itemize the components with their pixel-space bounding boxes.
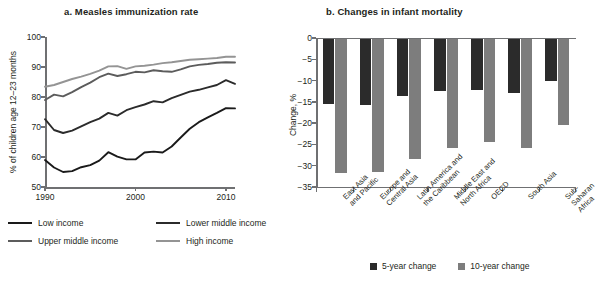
panel-a-y-tick-label: 60 xyxy=(32,152,41,162)
panel-b-y-tick-mark xyxy=(312,122,316,123)
panel-b-legend-item-10-year-change[interactable]: 10-year change xyxy=(458,261,529,271)
panel-a-x-tick-label: 2000 xyxy=(126,192,145,202)
panel-b-y-tick-mark xyxy=(312,101,316,102)
panel-b-x-tick-mark xyxy=(316,187,317,192)
panel-b-bar[interactable] xyxy=(484,39,496,142)
panel-b-y-tick-label: 0 xyxy=(307,33,312,43)
panel-a-x-tick-label: 2010 xyxy=(216,192,235,202)
panel-a-y-tick-label: 50 xyxy=(32,182,41,192)
panel-a-legend-row: Upper middle incomeHigh income xyxy=(8,236,294,246)
panel-a-line-lower-middle-income xyxy=(45,80,235,133)
panel-b-bar[interactable] xyxy=(508,39,520,93)
panel-b-bar[interactable] xyxy=(360,39,372,105)
legend-line-swatch-icon xyxy=(8,222,32,225)
panel-a-y-tick-label: 70 xyxy=(32,122,41,132)
panel-a-x-tick-mark xyxy=(44,187,45,191)
legend-line-swatch-icon xyxy=(156,240,180,243)
panel-b-bar[interactable] xyxy=(335,39,347,173)
panel-a-x-tick-label: 1990 xyxy=(36,192,55,202)
panel-b-bar[interactable] xyxy=(434,39,446,91)
panel-b-y-tick-label: −30 xyxy=(298,161,312,171)
panel-a-measles-immunization: a. Measles immunization rate % of childr… xyxy=(0,0,300,286)
panel-a-legend-label: Low income xyxy=(38,218,83,228)
panel-b-bar[interactable] xyxy=(323,39,335,104)
legend-square-swatch-icon xyxy=(370,263,377,270)
panel-b-legend-label: 5-year change xyxy=(382,261,436,271)
panel-a-legend-label: Lower middle income xyxy=(186,218,266,228)
panel-a-line-upper-middle-income xyxy=(45,62,235,100)
panel-a-line-low-income xyxy=(45,108,235,172)
panel-b-title: b. Changes in infant mortality xyxy=(326,6,463,17)
panel-b-y-tick-label: −20 xyxy=(298,118,312,128)
panel-b-y-tick-mark xyxy=(312,165,316,166)
panel-a-plot-area: 1009080706050 199020002010 xyxy=(45,37,235,187)
legend-line-swatch-icon xyxy=(8,240,32,243)
panel-b-y-tick-mark xyxy=(312,144,316,145)
panel-b-plot-area: 0−5−10−15−20−25−30−35 East Asia and Paci… xyxy=(316,38,576,187)
panel-a-y-tick-label: 90 xyxy=(32,62,41,72)
panel-a-y-tick-label: 100 xyxy=(27,32,41,42)
panel-b-y-tick-label: −15 xyxy=(298,97,312,107)
panel-b-y-tick-mark xyxy=(312,80,316,81)
panel-b-y-tick-label: −25 xyxy=(298,139,312,149)
panel-a-legend-label: High income xyxy=(186,236,233,246)
panel-b-y-tick-mark xyxy=(312,37,316,38)
panel-a-legend-row: Low incomeLower middle income xyxy=(8,218,294,228)
panel-b-legend: 5-year change10-year change xyxy=(370,261,551,271)
panel-b-legend-item-5-year-change[interactable]: 5-year change xyxy=(370,261,436,271)
panel-a-legend-item-high-income[interactable]: High income xyxy=(156,236,233,246)
panel-a-legend-item-lower-middle-income[interactable]: Lower middle income xyxy=(156,218,266,228)
panel-a-y-tick-label: 80 xyxy=(32,92,41,102)
panel-a-line-series xyxy=(45,37,235,187)
panel-b-bar[interactable] xyxy=(521,39,533,148)
panel-b-bar[interactable] xyxy=(545,39,557,81)
legend-square-swatch-icon xyxy=(458,263,465,270)
panel-b-y-axis-label-text: Change, % xyxy=(288,94,298,136)
panel-a-legend: Low incomeLower middle incomeUpper middl… xyxy=(8,218,294,254)
panel-b-bar[interactable] xyxy=(372,39,384,172)
panel-b-bar[interactable] xyxy=(471,39,483,90)
panel-a-x-tick-mark xyxy=(135,187,136,191)
panel-b-bar[interactable] xyxy=(447,39,459,148)
panel-b-bar[interactable] xyxy=(409,39,421,159)
panel-b-bar[interactable] xyxy=(397,39,409,96)
panel-a-legend-item-upper-middle-income[interactable]: Upper middle income xyxy=(8,236,156,246)
panel-a-y-axis-label: % of children age 12–23 months xyxy=(6,37,20,187)
legend-line-swatch-icon xyxy=(156,222,180,225)
panel-b-y-tick-label: −5 xyxy=(302,54,312,64)
panel-a-legend-item-low-income[interactable]: Low income xyxy=(8,218,156,228)
figure-root: a. Measles immunization rate % of childr… xyxy=(0,0,616,286)
panel-b-legend-label: 10-year change xyxy=(470,261,529,271)
panel-a-x-axis-line xyxy=(45,187,235,189)
panel-a-x-tick-mark xyxy=(225,187,226,191)
panel-a-y-axis-label-text: % of children age 12–23 months xyxy=(8,51,18,173)
panel-b-y-axis-line xyxy=(316,38,318,187)
panel-a-title: a. Measles immunization rate xyxy=(64,6,198,17)
panel-b-y-tick-label: −35 xyxy=(298,182,312,192)
panel-b-y-tick-mark xyxy=(312,59,316,60)
panel-a-legend-label: Upper middle income xyxy=(38,236,118,246)
panel-b-bar[interactable] xyxy=(558,39,570,125)
panel-b-y-tick-label: −10 xyxy=(298,76,312,86)
